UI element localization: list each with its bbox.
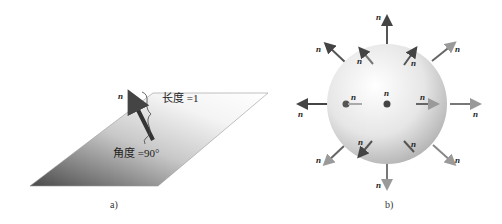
length-label: 长度 =1 bbox=[162, 89, 198, 105]
caption-b: b) bbox=[385, 199, 393, 210]
normal-label-right: n bbox=[473, 109, 478, 119]
normal-label: n bbox=[118, 91, 123, 101]
normal-label-top-left: n bbox=[316, 44, 321, 54]
normal-label-inner-bottom-right: n bbox=[411, 139, 416, 149]
diagram-canvas bbox=[0, 0, 502, 224]
sphere-figure bbox=[302, 20, 476, 185]
normal-label-inner-top-right: n bbox=[411, 58, 416, 68]
normal-label-bottom-left: n bbox=[316, 155, 321, 165]
normal-label-top: n bbox=[376, 12, 381, 22]
normal-label-left: n bbox=[298, 109, 303, 119]
normal-label-inner-center: n bbox=[384, 88, 389, 98]
normal-label-inner-right: n bbox=[420, 92, 425, 102]
normal-label-inner-top-left: n bbox=[357, 56, 362, 66]
plane bbox=[30, 93, 268, 186]
caption-a: a) bbox=[110, 199, 118, 210]
plane-figure bbox=[30, 92, 268, 186]
normal-label-bottom: n bbox=[376, 180, 381, 190]
normal-label-top-right: n bbox=[455, 44, 460, 54]
normal-label-inner-bottom-left: n bbox=[358, 137, 363, 147]
normal-label-bottom-right: n bbox=[455, 155, 460, 165]
normal-label-inner-left: n bbox=[351, 92, 356, 102]
angle-label: 角度 =90° bbox=[113, 144, 159, 160]
